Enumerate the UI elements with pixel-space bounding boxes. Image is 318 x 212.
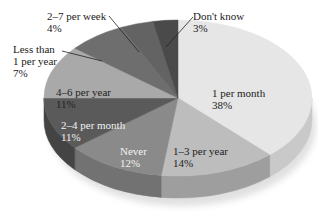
label-dont-know-pct: 3%	[193, 22, 244, 34]
label-two-four-per-month: 2–4 per month 11%	[61, 119, 125, 143]
label-two-seven-per-week: 2–7 per week 4%	[47, 10, 106, 34]
label-four-six-per-year: 4–6 per year 11%	[56, 86, 111, 110]
label-one-three-per-year-pct: 14%	[173, 157, 228, 169]
label-never-name: Never	[120, 145, 147, 157]
label-one-per-month-pct: 38%	[212, 99, 265, 111]
label-less-than-one-per-year: Less than 1 per year 7%	[13, 43, 57, 79]
label-two-four-per-month-pct: 11%	[61, 131, 125, 143]
label-one-three-per-year-name: 1–3 per year	[173, 145, 228, 157]
label-two-seven-per-week-name: 2–7 per week	[47, 10, 106, 22]
label-four-six-per-year-name: 4–6 per year	[56, 86, 111, 98]
label-one-three-per-year: 1–3 per year 14%	[173, 145, 228, 169]
label-dont-know: Don't know 3%	[193, 10, 244, 34]
label-less-than-one-per-year-pct: 7%	[13, 67, 57, 79]
label-two-seven-per-week-pct: 4%	[47, 22, 106, 34]
label-less-than-one-per-year-line1: Less than	[13, 43, 57, 55]
label-one-per-month-name: 1 per month	[212, 87, 265, 99]
label-never: Never 12%	[120, 145, 147, 169]
label-four-six-per-year-pct: 11%	[56, 98, 111, 110]
label-dont-know-name: Don't know	[193, 10, 244, 22]
label-two-four-per-month-name: 2–4 per month	[61, 119, 125, 131]
label-never-pct: 12%	[120, 157, 147, 169]
label-one-per-month: 1 per month 38%	[212, 87, 265, 111]
label-less-than-one-per-year-line2: 1 per year	[13, 55, 57, 67]
